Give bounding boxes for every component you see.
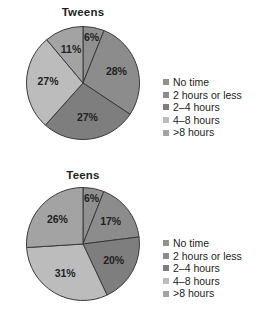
legend-item-label: 2–4 hours — [173, 262, 220, 275]
legend-item-label: >8 hours — [173, 287, 214, 300]
legend-item-label: No time — [173, 237, 209, 250]
chart-panel-tweens: Tweens 6%28%27%27%11% No time2 hours or … — [0, 0, 262, 161]
legend-item-label: No time — [173, 76, 209, 89]
pie-slice-label: 11% — [61, 43, 82, 55]
legend-item-label: 2 hours or less — [173, 89, 242, 102]
legend-tweens: No time2 hours or less2–4 hours4–8 hours… — [163, 76, 262, 139]
legend-item[interactable]: No time — [163, 237, 262, 250]
pie-slice-label: 27% — [77, 111, 99, 123]
legend-item[interactable]: 2 hours or less — [163, 250, 262, 263]
legend-item[interactable]: 2–4 hours — [163, 101, 262, 114]
pie-chart-tweens: 6%28%27%27%11% — [25, 24, 143, 144]
legend-item-label: >8 hours — [173, 126, 214, 139]
legend-swatch-icon — [163, 291, 169, 297]
chart-panel-teens: Teens 6%17%20%31%26% No time2 hours or l… — [0, 161, 262, 322]
legend-item-label: 4–8 hours — [173, 114, 220, 127]
legend-item-label: 4–8 hours — [173, 275, 220, 288]
legend-item[interactable]: 2–4 hours — [163, 262, 262, 275]
legend-item[interactable]: 4–8 hours — [163, 275, 262, 288]
pie-slice-label: 27% — [37, 75, 59, 87]
legend-swatch-icon — [163, 130, 169, 136]
legend-swatch-icon — [163, 265, 169, 271]
pie-slice-label: 17% — [100, 215, 122, 227]
pie-slice-label: 31% — [55, 267, 77, 279]
pie-slice-label: 6% — [84, 31, 100, 43]
legend-swatch-icon — [163, 79, 169, 85]
pie-slice-label: 20% — [103, 254, 125, 266]
legend-item-label: 2 hours or less — [173, 250, 242, 263]
legend-teens: No time2 hours or less2–4 hours4–8 hours… — [163, 237, 262, 300]
pie-slice-label: 6% — [84, 192, 100, 204]
legend-swatch-icon — [163, 92, 169, 98]
legend-item-label: 2–4 hours — [173, 101, 220, 114]
legend-swatch-icon — [163, 117, 169, 123]
page-title-teens: Teens — [0, 169, 166, 181]
legend-item[interactable]: No time — [163, 76, 262, 89]
legend-swatch-icon — [163, 253, 169, 259]
legend-swatch-icon — [163, 104, 169, 110]
pie-svg-tweens: 6%28%27%27%11% — [25, 24, 143, 144]
legend-item[interactable]: >8 hours — [163, 126, 262, 139]
legend-swatch-icon — [163, 240, 169, 246]
pie-svg-teens: 6%17%20%31%26% — [25, 185, 143, 305]
legend-swatch-icon — [163, 278, 169, 284]
pie-slice-label: 26% — [47, 213, 69, 225]
legend-item[interactable]: 4–8 hours — [163, 114, 262, 127]
page-title-tweens: Tweens — [0, 6, 166, 18]
pie-chart-teens: 6%17%20%31%26% — [25, 185, 143, 305]
legend-item[interactable]: >8 hours — [163, 287, 262, 300]
legend-item[interactable]: 2 hours or less — [163, 89, 262, 102]
pie-slice-label: 28% — [106, 65, 128, 77]
